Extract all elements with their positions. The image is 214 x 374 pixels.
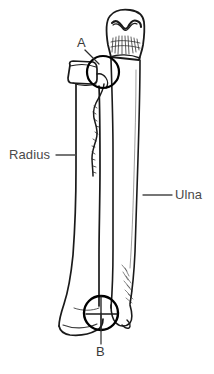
radius-label: Radius — [9, 148, 50, 162]
anatomy-figure: Radius Ulna A B — [0, 0, 214, 374]
marker-b-label: B — [96, 345, 105, 359]
ulna-label: Ulna — [175, 188, 202, 202]
marker-a-label: A — [77, 36, 86, 50]
radius-shaft-right-border — [99, 86, 100, 306]
